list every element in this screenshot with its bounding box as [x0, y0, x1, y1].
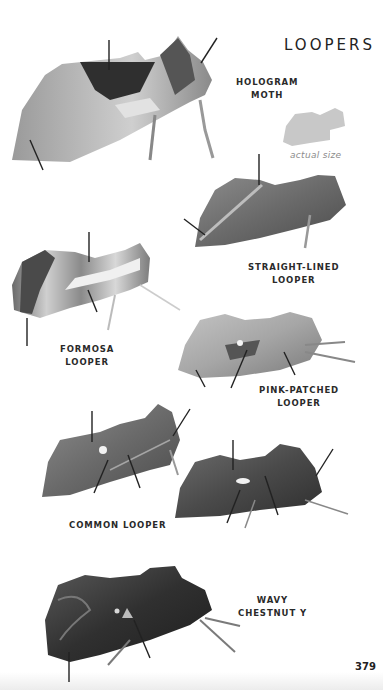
label-line: HOLOGRAM	[236, 76, 298, 89]
formosa-looper-illustration	[12, 243, 180, 330]
species-label-common-looper: COMMON LOOPER	[69, 519, 167, 532]
wavy-chestnut-y-illustration	[45, 566, 240, 665]
label-line: COMMON LOOPER	[69, 519, 167, 532]
label-line: PINK-PATCHED	[259, 384, 339, 397]
common-looper-illustration-2	[175, 444, 348, 528]
straight-lined-looper-illustration	[195, 175, 346, 248]
species-label-wavy-chestnut-y: WAVY CHESTNUT Y	[238, 594, 307, 620]
species-label-hologram-moth: HOLOGRAM MOTH	[236, 76, 298, 102]
hologram-moth-illustration	[12, 36, 213, 162]
species-label-formosa-looper: FORMOSA LOOPER	[60, 343, 114, 369]
label-line: MOTH	[236, 89, 298, 102]
label-line: STRAIGHT-LINED	[248, 261, 340, 274]
section-title: LOOPERS	[284, 36, 375, 54]
common-looper-illustration	[42, 404, 180, 497]
moth-illustrations	[0, 0, 383, 690]
species-label-straight-lined-looper: STRAIGHT-LINED LOOPER	[248, 261, 340, 287]
species-label-pink-patched-looper: PINK-PATCHED LOOPER	[259, 384, 339, 410]
label-line: FORMOSA	[60, 343, 114, 356]
actual-size-caption: actual size	[290, 150, 341, 160]
label-line: LOOPER	[60, 356, 114, 369]
page-number: 379	[355, 661, 376, 672]
label-line: WAVY	[238, 594, 307, 607]
label-line: CHESTNUT Y	[238, 607, 307, 620]
actual-size-silhouette	[283, 108, 345, 146]
label-line: LOOPER	[259, 397, 339, 410]
label-line: LOOPER	[248, 274, 340, 287]
pink-patched-looper-illustration	[178, 312, 355, 378]
